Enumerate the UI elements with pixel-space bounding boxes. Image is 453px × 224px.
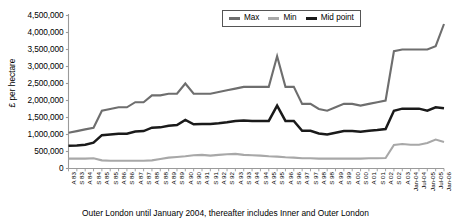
x-tick-label: A 83 <box>71 172 77 184</box>
x-tick-label: A 91 <box>204 172 210 184</box>
x-tick-label: S 83 <box>79 172 85 185</box>
series-line-min <box>69 140 445 161</box>
x-tick-label: S 89 <box>179 172 185 185</box>
x-tick-label: S 95 <box>279 172 285 185</box>
legend-swatch-icon <box>268 17 279 20</box>
x-tick-label: A 01 <box>371 172 377 184</box>
x-tick-label: A 90 <box>188 172 194 184</box>
x-tick-label: S 92 <box>229 172 235 185</box>
x-tick-label: A 03 <box>405 172 411 184</box>
x-tick-label: Jan-06 <box>446 172 452 191</box>
x-tick-label: A 98 <box>321 172 327 184</box>
x-tick-label: S 99 <box>346 172 352 185</box>
series-line-max <box>69 24 445 133</box>
legend-item: Max <box>229 14 259 22</box>
y-tick-label: 3,500,000 <box>0 45 64 53</box>
x-tick-label: A 96 <box>288 172 294 184</box>
x-tick-label: S 91 <box>213 172 219 185</box>
legend-item: Min <box>268 14 296 22</box>
x-tick-label: S 85 <box>113 172 119 185</box>
x-tick-label: S 02 <box>396 172 402 185</box>
x-tick-label: S 98 <box>329 172 335 185</box>
y-tick-label: 4,500,000 <box>0 11 64 19</box>
legend-label: Mid point <box>321 14 354 22</box>
x-tick-label: A 93 <box>238 172 244 184</box>
legend-item: Mid point <box>306 14 354 22</box>
x-tick-label: A 94 <box>254 172 260 184</box>
legend-label: Max <box>244 14 259 22</box>
y-tick-label: 1,000,000 <box>0 130 64 138</box>
x-tick-label: Jan-05 <box>430 172 436 191</box>
x-tick-label: A 00 <box>355 172 361 184</box>
x-tick-label: S 96 <box>296 172 302 185</box>
x-tick-label: Jul-04 <box>421 172 427 189</box>
x-tick-label: A 02 <box>388 172 394 184</box>
x-tick-label: S 86 <box>129 172 135 185</box>
x-tick-label: S 97 <box>313 172 319 185</box>
legend-swatch-icon <box>229 17 240 20</box>
y-tick-label: 3,000,000 <box>0 62 64 70</box>
x-tick-label: S 01 <box>380 172 386 185</box>
chart-caption: Outer London until January 2004, thereaf… <box>0 208 451 218</box>
x-tick-label: A 85 <box>104 172 110 184</box>
x-tick-label: S 00 <box>363 172 369 185</box>
x-tick-label: A 92 <box>221 172 227 184</box>
x-tick-label: S 93 <box>246 172 252 185</box>
x-tick-label: A 99 <box>338 172 344 184</box>
x-tick-label: A 86 <box>121 172 127 184</box>
x-tick-label: A 84 <box>87 172 93 184</box>
chart-legend: MaxMinMid point <box>222 10 361 27</box>
x-tick-label: S 88 <box>163 172 169 185</box>
x-tick-label: S 87 <box>146 172 152 185</box>
legend-label: Min <box>283 14 296 22</box>
x-tick-label: Jan-04 <box>413 172 419 191</box>
x-tick-label: Jul-05 <box>438 172 444 189</box>
x-tick-label: A 87 <box>138 172 144 184</box>
x-tick-label: A 88 <box>154 172 160 184</box>
y-tick-label: 0 <box>0 164 64 172</box>
x-tick-label: S 94 <box>263 172 269 185</box>
series-line-mid-point <box>69 106 445 146</box>
x-tick-label: S 90 <box>196 172 202 185</box>
y-tick-label: 500,000 <box>0 147 64 155</box>
y-tick-label: 1,500,000 <box>0 113 64 121</box>
x-tick-label: A 97 <box>304 172 310 184</box>
y-tick-label: 2,500,000 <box>0 79 64 87</box>
y-tick-label: 2,000,000 <box>0 96 64 104</box>
x-tick-label: A 95 <box>271 172 277 184</box>
legend-swatch-icon <box>306 17 317 20</box>
x-tick-label: S 84 <box>96 172 102 185</box>
x-tick-label: A 89 <box>171 172 177 184</box>
y-tick-label: 4,000,000 <box>0 28 64 36</box>
